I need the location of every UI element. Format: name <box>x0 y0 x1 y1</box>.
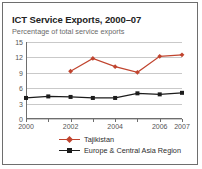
data-point-marker <box>46 94 50 98</box>
legend-square-icon <box>59 146 80 155</box>
legend-diamond-icon <box>59 135 80 144</box>
chart-card: ICT Service Exports, 2000–07 Percentage … <box>2 2 198 165</box>
data-point-marker <box>90 56 95 61</box>
x-axis-tick <box>26 119 27 122</box>
y-axis-tick-label: 6 <box>19 85 23 92</box>
x-axis-tick <box>160 119 161 122</box>
series-line <box>71 55 182 72</box>
data-point-marker <box>180 52 185 57</box>
y-axis-tick-label: 0 <box>19 116 23 123</box>
x-axis-tick-label: 2006 <box>152 123 168 130</box>
data-point-marker <box>113 64 118 69</box>
data-point-marker <box>113 96 117 100</box>
data-point-marker <box>69 95 73 99</box>
legend-item[interactable]: Europe & Central Asia Region <box>3 145 199 156</box>
x-axis-tick <box>48 119 49 122</box>
y-axis-tick-label: 15 <box>15 39 23 46</box>
legend-item[interactable]: Tajikistan <box>3 134 199 145</box>
plot-area: 03691215 20002002200420062007 <box>26 42 182 119</box>
chart-title: ICT Service Exports, 2000–07 <box>12 14 141 25</box>
x-axis-tick-label: 2000 <box>18 123 34 130</box>
x-axis-tick <box>71 119 72 122</box>
data-point-marker <box>158 92 162 96</box>
x-axis-tick <box>115 119 116 122</box>
x-axis-tick-label: 2002 <box>63 123 79 130</box>
gridline <box>26 119 182 120</box>
data-point-marker <box>24 96 28 100</box>
data-point-marker <box>91 96 95 100</box>
y-axis-tick-label: 3 <box>19 100 23 107</box>
data-point-marker <box>180 91 184 95</box>
x-axis-tick <box>137 119 138 122</box>
x-axis-tick-label: 2007 <box>174 123 190 130</box>
legend-label: Tajikistan <box>84 136 114 143</box>
data-point-marker <box>68 69 73 74</box>
data-point-marker <box>135 91 139 95</box>
series-layer <box>26 42 182 119</box>
x-axis-tick <box>182 119 183 122</box>
x-axis-tick <box>93 119 94 122</box>
y-axis-tick-label: 9 <box>19 69 23 76</box>
x-axis-tick-label: 2004 <box>107 123 123 130</box>
chart-subtitle: Percentage of total service exports <box>12 27 124 36</box>
y-axis-tick-label: 12 <box>15 54 23 61</box>
legend-label: Europe & Central Asia Region <box>84 147 181 154</box>
chart-legend: TajikistanEurope & Central Asia Region <box>3 134 199 156</box>
